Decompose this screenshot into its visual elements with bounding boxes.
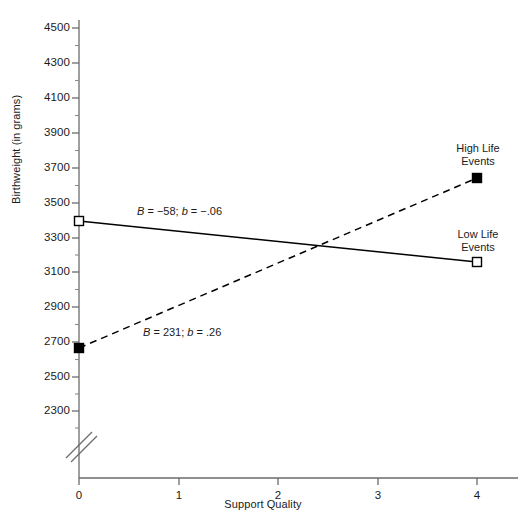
series-label-low-life-events: Low Life Events	[438, 228, 518, 254]
series-label-high-life-events-line2: Events	[461, 155, 495, 167]
series-label-high-life-events: High Life Events	[438, 142, 518, 168]
ytick-label-2700: 2700	[24, 335, 70, 347]
x-axis-title: Support Quality	[0, 498, 526, 510]
ytick-label-2900: 2900	[24, 300, 70, 312]
marker-high-life-events-x4	[473, 174, 482, 183]
ytick-label-4100: 4100	[24, 91, 70, 103]
series-label-low-life-events-line2: Events	[461, 241, 495, 253]
y-axis-title: Birthweight (in grams)	[10, 74, 22, 204]
series-line-high-life-events	[79, 178, 477, 348]
series-label-high-life-events-line1: High Life	[456, 142, 499, 154]
series-label-low-life-events-line1: Low Life	[458, 228, 499, 240]
chart-figure: 4500 4300 4100 3900 3700 3500 3300 3100 …	[0, 0, 526, 527]
ytick-label-3100: 3100	[24, 265, 70, 277]
ytick-label-3500: 3500	[24, 196, 70, 208]
marker-low-life-events-x0	[75, 217, 84, 226]
ytick-label-3900: 3900	[24, 126, 70, 138]
chart-canvas	[0, 0, 526, 527]
series-line-low-life-events	[79, 221, 477, 262]
x-major-ticks	[79, 478, 477, 485]
ytick-label-3700: 3700	[24, 161, 70, 173]
ytick-label-3300: 3300	[24, 231, 70, 243]
annotation-low-life-events: B = −58; b = −.06	[137, 205, 222, 217]
ytick-label-4500: 4500	[24, 21, 70, 33]
ytick-label-2500: 2500	[24, 370, 70, 382]
y-axis-break-icon	[66, 432, 97, 462]
marker-high-life-events-x0	[75, 344, 84, 353]
ytick-label-4300: 4300	[24, 56, 70, 68]
ytick-label-2300: 2300	[24, 404, 70, 416]
marker-low-life-events-x4	[473, 258, 482, 267]
annotation-high-life-events: B = 231; b = .26	[143, 326, 221, 338]
